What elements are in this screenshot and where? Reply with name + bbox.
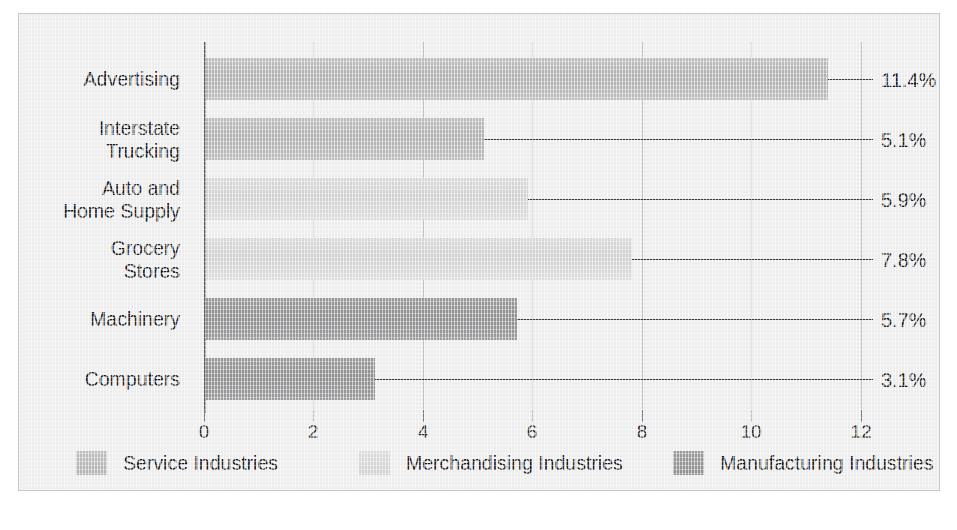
value-label-computers: 3.1% <box>881 369 927 392</box>
bar-advertising[interactable] <box>206 58 828 100</box>
leader-line-machinery <box>517 319 873 320</box>
gridline <box>861 42 862 409</box>
bar-grocery-stores[interactable] <box>206 238 632 280</box>
legend-swatch-manufacturing-icon <box>673 451 704 475</box>
x-tick-label-2: 2 <box>283 421 343 443</box>
bar-computers[interactable] <box>206 358 375 400</box>
x-tick-label-0: 0 <box>174 421 234 443</box>
leader-line-computers <box>375 379 873 380</box>
bar-auto-and-home-supply[interactable] <box>206 178 528 220</box>
value-label-advertising: 11.4% <box>881 69 936 92</box>
chart-legend: Service Industries Merchandising Industr… <box>19 451 940 491</box>
legend-swatch-service-icon <box>76 451 107 475</box>
legend-label-manufacturing: Manufacturing Industries <box>720 452 934 475</box>
legend-swatch-merchandising-icon <box>359 451 390 475</box>
category-label-interstate-trucking: Interstate Trucking <box>99 117 180 163</box>
leader-line-advertising <box>828 79 873 80</box>
leader-line-grocery-stores <box>632 259 873 260</box>
x-tick-label-10: 10 <box>721 421 781 443</box>
x-tick-label-6: 6 <box>502 421 562 443</box>
bar-interstate-trucking[interactable] <box>206 118 484 160</box>
plot-area: 0 2 4 6 8 10 12 11.4% Advertising 5.1% I… <box>19 14 939 490</box>
page-caption <box>20 516 720 530</box>
x-tick-label-8: 8 <box>612 421 672 443</box>
legend-item-service[interactable]: Service Industries <box>76 451 278 475</box>
legend-item-manufacturing[interactable]: Manufacturing Industries <box>673 451 934 475</box>
category-label-auto-and-home-supply: Auto and Home Supply <box>63 177 180 223</box>
legend-item-merchandising[interactable]: Merchandising Industries <box>359 451 623 475</box>
value-label-auto-and-home-supply: 5.9% <box>881 189 927 212</box>
chart-panel: 0 2 4 6 8 10 12 11.4% Advertising 5.1% I… <box>18 13 940 491</box>
x-tick-label-12: 12 <box>831 421 891 443</box>
bar-machinery[interactable] <box>206 298 517 340</box>
value-label-interstate-trucking: 5.1% <box>881 129 927 152</box>
legend-label-service: Service Industries <box>123 452 278 475</box>
legend-label-merchandising: Merchandising Industries <box>406 452 623 475</box>
y-axis-line <box>204 42 206 414</box>
category-label-computers: Computers <box>85 368 180 391</box>
value-label-grocery-stores: 7.8% <box>881 249 927 272</box>
leader-line-auto-and-home-supply <box>528 199 873 200</box>
leader-line-interstate-trucking <box>484 139 873 140</box>
category-label-grocery-stores: Grocery Stores <box>111 237 180 283</box>
value-label-machinery: 5.7% <box>881 309 927 332</box>
x-tick-label-4: 4 <box>393 421 453 443</box>
category-label-machinery: Machinery <box>90 308 180 331</box>
category-label-advertising: Advertising <box>84 68 180 91</box>
